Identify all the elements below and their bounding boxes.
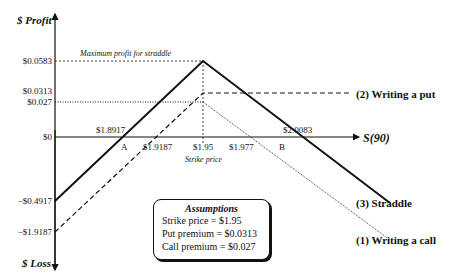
assumption-call-premium: Call premium = $0.027 <box>154 240 269 253</box>
assumption-strike: Strike price = $1.95 <box>154 214 269 227</box>
legend-writing-put: (2) Writing a put <box>356 88 435 100</box>
assumption-put-premium: Put premium = $0.0313 <box>154 227 269 240</box>
x-tick-a-label: A <box>121 143 128 152</box>
x-axis-title: S(90) <box>363 131 390 146</box>
assumptions-box: Assumptions Strike price = $1.95 Put pre… <box>153 199 270 260</box>
legend-writing-call: (1) Writing a call <box>356 234 436 246</box>
max-profit-annotation: Maximum profit for straddle <box>80 49 171 58</box>
x-tick-put-breakeven: $1.9187 <box>143 143 172 152</box>
y-tick-call-premium: $0.027 <box>2 98 52 107</box>
x-tick-strike: $1.95 <box>193 143 213 152</box>
y-tick-straddle-loss: −$0.4917 <box>2 197 52 206</box>
x-tick-b-value: $2.0083 <box>283 126 312 135</box>
x-tick-a-value: $1.8917 <box>96 126 125 135</box>
y-tick-zero: $0 <box>2 133 52 142</box>
x-tick-b-label: B <box>279 143 285 152</box>
y-tick-put-premium: $0.0313 <box>2 87 52 96</box>
y-tick-max: $0.0583 <box>2 57 52 66</box>
y-tick-put-loss: −$1.9187 <box>2 228 52 237</box>
y-axis-title-loss: $ Loss <box>22 257 51 269</box>
x-tick-call-breakeven: $1.977 <box>229 143 254 152</box>
y-axis-title-profit: $ Profit <box>17 14 52 26</box>
assumptions-title: Assumptions <box>154 203 269 214</box>
legend-straddle: (3) Straddle <box>356 197 412 209</box>
strike-price-note: Strike price <box>185 155 222 164</box>
